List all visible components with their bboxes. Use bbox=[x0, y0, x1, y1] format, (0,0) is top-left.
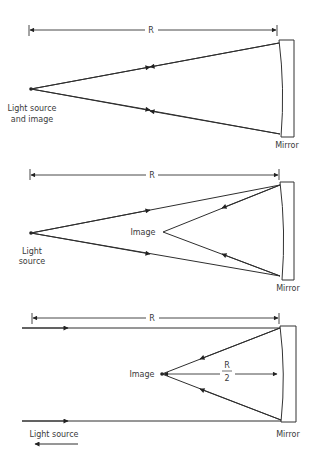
image-label: Image bbox=[130, 228, 155, 237]
half-radius-numerator: R bbox=[224, 361, 230, 370]
mirror bbox=[280, 326, 296, 422]
radius-dimension: R bbox=[32, 313, 279, 324]
image-label: Image bbox=[129, 370, 154, 379]
ray-arrow-back-lower bbox=[150, 111, 280, 134]
source-label-line1: Light source bbox=[7, 104, 56, 113]
panel-1: R Light source and image Mirror bbox=[7, 25, 299, 150]
ray-arrow-lower-reflect bbox=[200, 389, 281, 420]
ray-arrow-upper-reflect bbox=[222, 185, 280, 208]
half-radius-denominator: 2 bbox=[224, 374, 229, 383]
mirror-optics-diagram: R Light source and image Mirror R bbox=[0, 0, 319, 467]
radius-label: R bbox=[148, 26, 154, 35]
radius-dimension: R bbox=[29, 25, 277, 36]
ray-arrow-upper-reflect bbox=[200, 328, 280, 359]
mirror-label: Mirror bbox=[275, 141, 299, 150]
radius-label: R bbox=[149, 171, 155, 180]
mirror bbox=[279, 40, 294, 137]
half-radius-dimension: R 2 bbox=[164, 361, 277, 383]
source-label-line2: and image bbox=[11, 115, 54, 124]
source-label: Light source bbox=[29, 430, 78, 439]
radius-label: R bbox=[149, 314, 155, 323]
source-label-line1: Light bbox=[22, 247, 42, 256]
radius-dimension: R bbox=[30, 169, 279, 180]
ray-arrow-out-upper bbox=[31, 67, 150, 89]
ray-arrow-back-upper bbox=[150, 43, 279, 67]
mirror bbox=[280, 182, 294, 280]
mirror-label: Mirror bbox=[276, 430, 300, 439]
panel-3: R R 2 Image Light source Mirror bbox=[22, 313, 300, 444]
mirror-label: Mirror bbox=[276, 284, 300, 293]
source-label-line2: source bbox=[19, 257, 46, 266]
ray-arrow-lower-reflect bbox=[222, 254, 280, 276]
panel-2: R Image Light source Mirror bbox=[19, 169, 301, 293]
